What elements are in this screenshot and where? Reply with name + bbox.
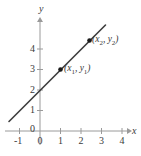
point-1-close-paren: ) xyxy=(87,63,90,73)
y-axis xyxy=(37,17,43,145)
x-tick-label-3: 3 xyxy=(99,136,104,146)
y-tick-label-2: 2 xyxy=(30,85,35,95)
y-tick-label-1: 1 xyxy=(30,105,35,115)
point-1-label: (x1, y1) xyxy=(64,64,91,76)
y-tick-label-0: 0 xyxy=(30,124,35,134)
x-tick-label-4: 4 xyxy=(120,136,125,146)
x-tick-label-2: 2 xyxy=(79,136,84,146)
coordinate-plane-figure: y x -1 0 1 2 3 4 0 1 2 3 4 (x1, y1) (x2,… xyxy=(0,0,141,156)
data-point-1 xyxy=(58,67,63,72)
x-tick-label-0: 0 xyxy=(38,136,43,146)
x-tick-label-neg1: -1 xyxy=(14,136,22,146)
plot-canvas xyxy=(0,0,141,156)
x-axis-label: x xyxy=(132,126,136,136)
y-axis-label: y xyxy=(39,4,43,14)
y-tick-label-3: 3 xyxy=(30,64,35,74)
point-2-label: (x2, y2) xyxy=(92,35,119,47)
x-tick-label-1: 1 xyxy=(58,136,63,146)
point-2-close-paren: ) xyxy=(115,34,118,44)
x-axis xyxy=(5,128,132,134)
y-tick-label-4: 4 xyxy=(30,44,35,54)
